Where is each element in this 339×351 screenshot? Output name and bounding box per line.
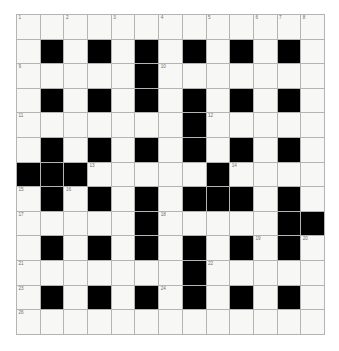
crossword-letter-cell[interactable]: 23 <box>17 285 41 310</box>
crossword-letter-cell[interactable] <box>88 211 112 236</box>
crossword-letter-cell[interactable] <box>301 187 325 212</box>
crossword-letter-cell[interactable]: 5 <box>206 15 230 40</box>
crossword-letter-cell[interactable] <box>253 310 277 335</box>
crossword-letter-cell[interactable] <box>64 113 88 138</box>
crossword-letter-cell[interactable] <box>301 162 325 187</box>
crossword-letter-cell[interactable] <box>182 211 206 236</box>
crossword-letter-cell[interactable] <box>301 64 325 89</box>
crossword-letter-cell[interactable] <box>206 310 230 335</box>
crossword-letter-cell[interactable]: 17 <box>17 211 41 236</box>
crossword-letter-cell[interactable] <box>182 162 206 187</box>
crossword-letter-cell[interactable]: 9 <box>17 64 41 89</box>
crossword-letter-cell[interactable] <box>277 64 301 89</box>
crossword-letter-cell[interactable] <box>230 211 254 236</box>
crossword-letter-cell[interactable] <box>17 236 41 261</box>
crossword-letter-cell[interactable] <box>206 88 230 113</box>
crossword-letter-cell[interactable] <box>17 137 41 162</box>
crossword-letter-cell[interactable] <box>253 260 277 285</box>
crossword-letter-cell[interactable] <box>159 187 183 212</box>
crossword-letter-cell[interactable] <box>230 113 254 138</box>
crossword-letter-cell[interactable] <box>159 39 183 64</box>
crossword-letter-cell[interactable] <box>253 187 277 212</box>
crossword-letter-cell[interactable] <box>159 113 183 138</box>
crossword-letter-cell[interactable]: 7 <box>277 15 301 40</box>
crossword-letter-cell[interactable] <box>206 39 230 64</box>
crossword-letter-cell[interactable] <box>182 310 206 335</box>
crossword-letter-cell[interactable] <box>159 137 183 162</box>
crossword-letter-cell[interactable] <box>88 310 112 335</box>
crossword-letter-cell[interactable] <box>88 113 112 138</box>
crossword-letter-cell[interactable] <box>277 310 301 335</box>
crossword-letter-cell[interactable] <box>301 39 325 64</box>
crossword-letter-cell[interactable] <box>88 64 112 89</box>
crossword-letter-cell[interactable]: 19 <box>253 236 277 261</box>
crossword-letter-cell[interactable] <box>159 260 183 285</box>
crossword-letter-cell[interactable] <box>159 88 183 113</box>
crossword-letter-cell[interactable] <box>88 260 112 285</box>
crossword-letter-cell[interactable]: 10 <box>159 64 183 89</box>
crossword-letter-cell[interactable]: 20 <box>301 236 325 261</box>
crossword-grid[interactable]: 1234567891011121314151617181920212223242… <box>16 14 325 335</box>
crossword-letter-cell[interactable]: 15 <box>17 187 41 212</box>
crossword-letter-cell[interactable]: 14 <box>230 162 254 187</box>
crossword-letter-cell[interactable] <box>40 211 64 236</box>
crossword-letter-cell[interactable] <box>64 285 88 310</box>
crossword-letter-cell[interactable] <box>64 39 88 64</box>
crossword-letter-cell[interactable] <box>230 15 254 40</box>
crossword-letter-cell[interactable] <box>253 285 277 310</box>
crossword-letter-cell[interactable] <box>253 162 277 187</box>
crossword-letter-cell[interactable] <box>253 137 277 162</box>
crossword-letter-cell[interactable]: 11 <box>17 113 41 138</box>
crossword-letter-cell[interactable]: 4 <box>159 15 183 40</box>
crossword-letter-cell[interactable]: 22 <box>206 260 230 285</box>
crossword-letter-cell[interactable] <box>159 162 183 187</box>
crossword-letter-cell[interactable]: 13 <box>88 162 112 187</box>
crossword-letter-cell[interactable] <box>277 260 301 285</box>
crossword-letter-cell[interactable] <box>206 236 230 261</box>
crossword-letter-cell[interactable] <box>230 260 254 285</box>
crossword-letter-cell[interactable] <box>17 88 41 113</box>
crossword-letter-cell[interactable] <box>111 260 135 285</box>
crossword-letter-cell[interactable] <box>159 310 183 335</box>
crossword-letter-cell[interactable]: 21 <box>17 260 41 285</box>
crossword-letter-cell[interactable] <box>111 113 135 138</box>
crossword-letter-cell[interactable] <box>206 285 230 310</box>
crossword-letter-cell[interactable] <box>301 137 325 162</box>
crossword-letter-cell[interactable] <box>182 64 206 89</box>
crossword-letter-cell[interactable] <box>111 162 135 187</box>
crossword-letter-cell[interactable] <box>135 162 159 187</box>
crossword-letter-cell[interactable] <box>253 39 277 64</box>
crossword-letter-cell[interactable] <box>135 310 159 335</box>
crossword-letter-cell[interactable] <box>277 162 301 187</box>
crossword-letter-cell[interactable]: 18 <box>159 211 183 236</box>
crossword-letter-cell[interactable] <box>111 187 135 212</box>
crossword-letter-cell[interactable] <box>111 211 135 236</box>
crossword-letter-cell[interactable] <box>40 310 64 335</box>
crossword-letter-cell[interactable] <box>206 64 230 89</box>
crossword-letter-cell[interactable] <box>40 64 64 89</box>
crossword-letter-cell[interactable] <box>159 236 183 261</box>
crossword-letter-cell[interactable]: 8 <box>301 15 325 40</box>
crossword-letter-cell[interactable] <box>64 260 88 285</box>
crossword-letter-cell[interactable] <box>64 137 88 162</box>
crossword-letter-cell[interactable] <box>111 285 135 310</box>
crossword-letter-cell[interactable] <box>111 310 135 335</box>
crossword-letter-cell[interactable]: 24 <box>159 285 183 310</box>
crossword-letter-cell[interactable] <box>40 113 64 138</box>
crossword-letter-cell[interactable] <box>40 15 64 40</box>
crossword-letter-cell[interactable]: 3 <box>111 15 135 40</box>
crossword-letter-cell[interactable] <box>135 15 159 40</box>
crossword-letter-cell[interactable] <box>40 260 64 285</box>
crossword-letter-cell[interactable] <box>64 236 88 261</box>
crossword-letter-cell[interactable]: 16 <box>64 187 88 212</box>
crossword-letter-cell[interactable] <box>206 211 230 236</box>
crossword-letter-cell[interactable] <box>135 260 159 285</box>
crossword-letter-cell[interactable]: 2 <box>64 15 88 40</box>
crossword-letter-cell[interactable] <box>88 15 112 40</box>
crossword-letter-cell[interactable] <box>111 236 135 261</box>
crossword-letter-cell[interactable]: 12 <box>206 113 230 138</box>
crossword-letter-cell[interactable] <box>64 88 88 113</box>
crossword-letter-cell[interactable] <box>111 88 135 113</box>
crossword-letter-cell[interactable] <box>301 260 325 285</box>
crossword-letter-cell[interactable] <box>253 211 277 236</box>
